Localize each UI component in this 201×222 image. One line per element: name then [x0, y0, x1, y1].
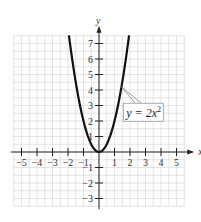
axes: [11, 26, 195, 210]
y-tick-label: −1: [82, 162, 93, 173]
callout-label: y = 2x2: [125, 105, 161, 120]
callout-label-superscript: 2: [157, 105, 161, 114]
y-tick-label: 2: [88, 116, 93, 127]
y-tick-label: 6: [88, 54, 93, 65]
x-tick-label: −4: [32, 157, 43, 168]
y-tick-label: −3: [82, 193, 93, 204]
x-axis-arrow-icon: [187, 150, 194, 155]
tick-labels: xy−5−4−3−2−112345−3−2−11234567: [16, 15, 201, 204]
y-axis-label: y: [95, 15, 101, 26]
x-tick-label: 1: [112, 157, 117, 168]
y-tick-label: −2: [82, 178, 93, 189]
x-tick-label: −5: [16, 157, 27, 168]
x-tick-label: 3: [143, 157, 148, 168]
x-tick-label: 2: [128, 157, 133, 168]
x-tick-label: 5: [174, 157, 179, 168]
x-tick-label: 4: [159, 157, 164, 168]
callout-leader-line: [121, 87, 141, 103]
y-tick-label: 4: [88, 85, 93, 96]
x-tick-label: −2: [63, 157, 74, 168]
x-axis-label: x: [197, 146, 201, 157]
y-tick-label: 5: [88, 69, 93, 80]
chart: xy−5−4−3−2−112345−3−2−11234567 y = 2x2: [0, 0, 201, 222]
callout-label-main: y = 2x: [125, 106, 157, 120]
curve-callout: y = 2x2: [121, 87, 163, 121]
y-tick-label: 7: [88, 38, 93, 49]
x-tick-label: −3: [47, 157, 58, 168]
y-axis-arrow-icon: [97, 26, 102, 33]
y-tick-label: 3: [88, 100, 93, 111]
